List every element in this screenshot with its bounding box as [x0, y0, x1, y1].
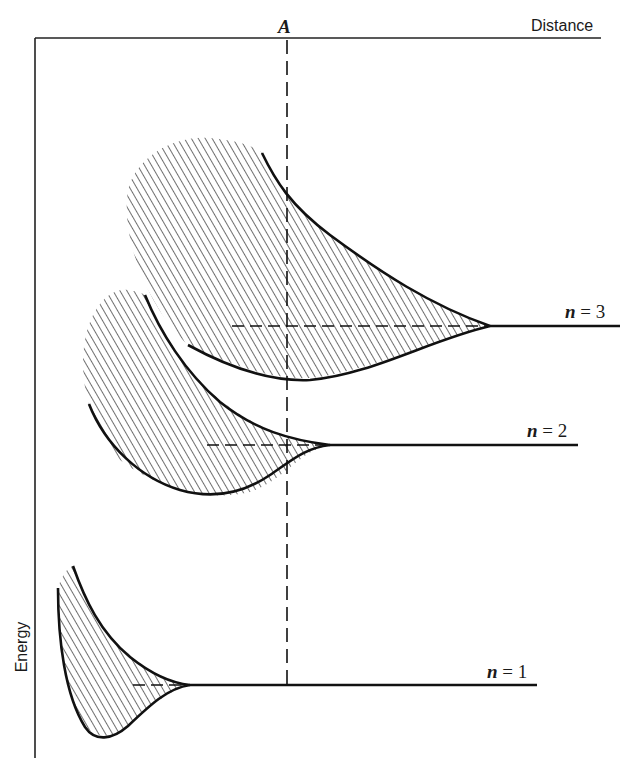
level-n3-variable: n [565, 301, 576, 322]
level-n3-value: 3 [596, 301, 606, 322]
level-n1-value: 1 [518, 661, 528, 682]
level-n1-equals: = [498, 661, 518, 682]
level-label-n2: n = 2 [527, 420, 567, 442]
level-n3-equals: = [576, 301, 596, 322]
level-n1-variable: n [487, 661, 498, 682]
level-n2-value: 2 [558, 420, 568, 441]
x-axis-label: Distance [531, 17, 593, 35]
band-n3 [127, 138, 620, 380]
level-n2-variable: n [527, 420, 538, 441]
energy-distance-diagram [0, 0, 644, 770]
level-label-n3: n = 3 [565, 301, 605, 323]
level-n2-equals: = [538, 420, 558, 441]
y-axis-label: Energy [13, 617, 31, 677]
band-n1 [58, 566, 537, 737]
marker-a-label: A [278, 16, 291, 38]
level-label-n1: n = 1 [487, 661, 527, 683]
